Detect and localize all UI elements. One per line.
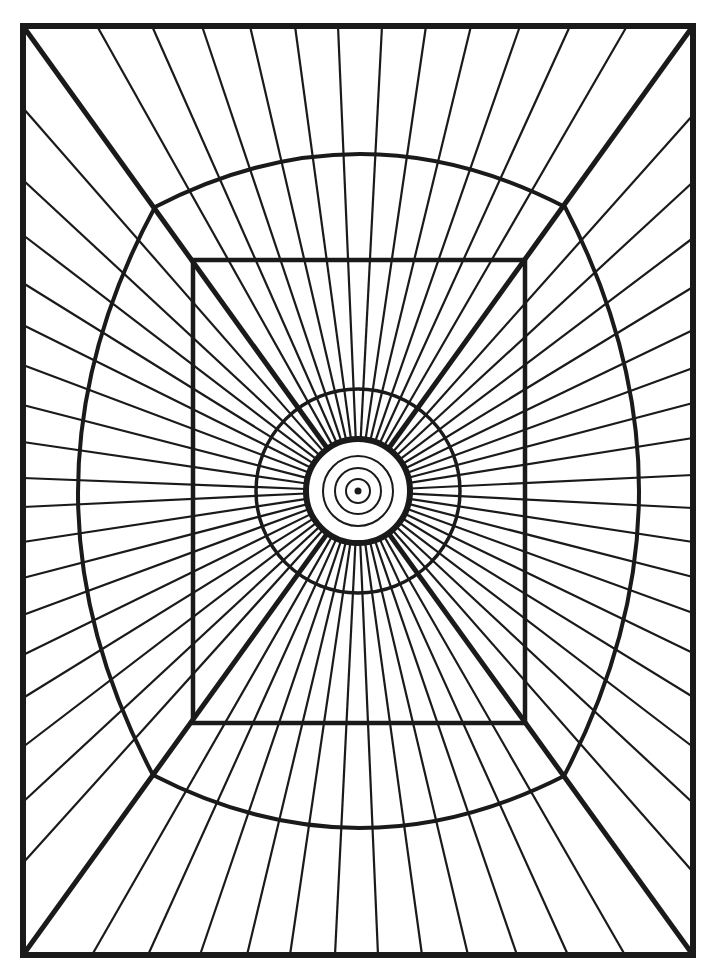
ray-line bbox=[408, 403, 693, 478]
ray-line bbox=[375, 540, 517, 955]
center-dot bbox=[355, 488, 362, 495]
ray-line bbox=[360, 543, 378, 955]
ray-line bbox=[23, 526, 320, 802]
diagonal-line bbox=[23, 26, 328, 449]
ray-line bbox=[366, 26, 426, 440]
ray-line bbox=[405, 330, 693, 468]
ray-line bbox=[23, 504, 308, 578]
ray-line bbox=[399, 523, 693, 747]
ray-line bbox=[361, 26, 382, 439]
ray-line bbox=[375, 26, 520, 442]
ray-line bbox=[370, 542, 468, 955]
ray-line bbox=[384, 536, 625, 955]
ray-line bbox=[23, 478, 306, 489]
ray-line bbox=[23, 180, 320, 456]
ray-line bbox=[399, 238, 693, 460]
ray-line bbox=[295, 26, 351, 439]
ray-line bbox=[202, 26, 341, 442]
diagonal-line bbox=[23, 533, 328, 955]
ray-line bbox=[365, 543, 422, 955]
ray-line bbox=[370, 26, 471, 440]
ray-line bbox=[396, 526, 693, 803]
ray-line bbox=[408, 504, 693, 577]
ray-line bbox=[247, 542, 346, 955]
ray-line bbox=[23, 405, 308, 478]
ray-line bbox=[338, 26, 356, 439]
ray-line bbox=[250, 26, 346, 440]
ray-line bbox=[23, 365, 309, 473]
ray-line bbox=[23, 523, 317, 747]
radial-illusion-artwork bbox=[0, 0, 716, 976]
ray-line bbox=[335, 543, 355, 955]
